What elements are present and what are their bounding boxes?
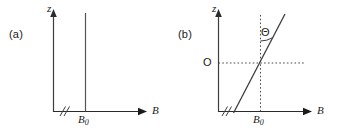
panel-a-plot [0,0,172,130]
panel-a-z-axis [50,9,57,112]
panel-a-b0-base: B [78,113,85,125]
panel-b-slanted-line [234,14,286,113]
figure-container: (a) z B B0 ( [0,0,345,130]
panel-b-z-axis-label: z [212,2,216,14]
panel-a-b-axis-label: B [152,104,159,116]
panel-b-label: (b) [178,28,192,40]
panel-b-b0-base: B [253,113,260,125]
panel-b-b0-tick-label: B0 [253,113,264,127]
panel-a-label: (a) [9,28,23,40]
panel-a-b0-subscript: 0 [85,118,89,127]
panel-b: (b) [172,0,345,130]
panel-a-b-axis [54,108,148,115]
panel-a-b0-tick-label: B0 [78,113,89,127]
panel-b-theta-angle-label: Θ [261,26,270,38]
panel-b-b-axis [219,108,313,115]
panel-a-z-axis-label: z [47,2,51,14]
panel-a: (a) z B B0 [0,0,172,130]
panel-b-z-axis [215,9,222,112]
panel-b-origin-tick-label: O [203,56,212,68]
panel-b-b-axis-label: B [317,104,324,116]
panel-b-b0-subscript: 0 [260,118,264,127]
